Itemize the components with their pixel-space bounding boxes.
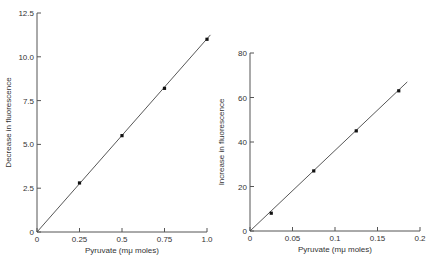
- y-tick-label: 60: [238, 94, 247, 103]
- figure: 00.250.50.751.002.55.07.510.012.5Pyruvat…: [0, 0, 437, 261]
- x-tick-label: 0.5: [116, 235, 128, 244]
- y-axis-label: Increase in fluorescence: [217, 98, 226, 185]
- y-tick-label: 2.5: [23, 184, 35, 193]
- data-point: [78, 181, 81, 184]
- x-tick-label: 0.2: [414, 234, 426, 243]
- x-tick-label: 0.1: [329, 234, 341, 243]
- fit-line: [250, 82, 407, 231]
- right-chart: 00.050.10.150.2020406080Pyruvate (mμ mol…: [217, 49, 426, 254]
- y-tick-label: 80: [238, 49, 247, 58]
- data-point: [312, 169, 315, 172]
- data-point: [163, 87, 166, 90]
- y-tick-label: 0: [30, 228, 35, 237]
- x-axis-label: Pyruvate (mμ moles): [298, 245, 372, 254]
- y-tick-label: 40: [238, 138, 247, 147]
- x-tick-label: 0.25: [72, 235, 88, 244]
- y-tick-label: 0: [243, 227, 248, 236]
- y-tick-label: 12.5: [18, 9, 34, 18]
- x-axis-label: Pyruvate (mμ moles): [85, 246, 159, 255]
- y-tick-label: 5.0: [23, 140, 35, 149]
- fit-line: [37, 35, 210, 232]
- x-tick-label: 0.05: [285, 234, 301, 243]
- x-tick-label: 0.75: [157, 235, 173, 244]
- x-tick-label: 0: [35, 235, 40, 244]
- data-point: [270, 212, 273, 215]
- data-point: [120, 134, 123, 137]
- x-tick-label: 1.0: [201, 235, 213, 244]
- data-point: [205, 38, 208, 41]
- data-point: [397, 89, 400, 92]
- left-chart: 00.250.50.751.002.55.07.510.012.5Pyruvat…: [4, 9, 213, 255]
- y-tick-label: 20: [238, 183, 247, 192]
- x-tick-label: 0: [248, 234, 253, 243]
- y-axis-label: Decrease in fluorescence: [4, 77, 13, 168]
- data-point: [355, 129, 358, 132]
- x-tick-label: 0.15: [370, 234, 386, 243]
- y-tick-label: 7.5: [23, 97, 35, 106]
- y-tick-label: 10.0: [18, 53, 34, 62]
